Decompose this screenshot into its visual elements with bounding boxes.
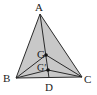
label-c: C (84, 73, 91, 85)
label-g: G (37, 48, 45, 60)
label-g-prime: G′ (37, 62, 46, 73)
label-d: D (45, 81, 53, 93)
triangle-diagram: A B C D G G′ (0, 0, 97, 95)
label-b: B (3, 72, 10, 84)
triangle-abc (16, 14, 82, 78)
point-g-prime (46, 68, 50, 72)
label-a: A (35, 1, 43, 13)
